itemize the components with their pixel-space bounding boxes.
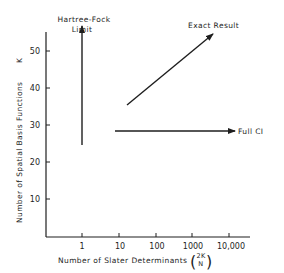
y-axis-symbol: K	[15, 57, 24, 63]
svg-text:2K: 2K	[196, 252, 206, 260]
x-axis-label: Number of Slater Determinants	[58, 256, 187, 265]
y-tick-50: 50	[30, 47, 40, 56]
exact-result-arrow	[127, 34, 213, 105]
hartree-fock-label-line2: Limit	[72, 25, 93, 34]
y-tick-40: 40	[30, 84, 40, 93]
y-axis-label: Number of Spatial Basis Functions	[15, 82, 24, 223]
y-tick-20: 20	[30, 158, 40, 167]
x-tick-10: 10	[115, 242, 125, 251]
svg-text:N: N	[198, 260, 203, 268]
exact-result-label: Exact Result	[188, 21, 239, 30]
x-tick-100: 100	[149, 242, 164, 251]
svg-text:): )	[206, 252, 212, 271]
y-tick-30: 30	[30, 121, 40, 130]
x-axis-formula: ( 2K N )	[190, 252, 212, 271]
x-tick-10000: 10,000	[217, 242, 245, 251]
y-tick-10: 10	[30, 195, 40, 204]
hartree-fock-label-line1: Hartree-Fock	[57, 15, 110, 24]
x-tick-1: 1	[79, 242, 84, 251]
svg-text:(: (	[190, 252, 196, 271]
diagram: 10 20 30 40 50 1 10 100 1000 10,000 Numb…	[0, 0, 284, 273]
full-ci-label: Full CI	[238, 127, 263, 136]
x-tick-1000: 1000	[183, 242, 203, 251]
